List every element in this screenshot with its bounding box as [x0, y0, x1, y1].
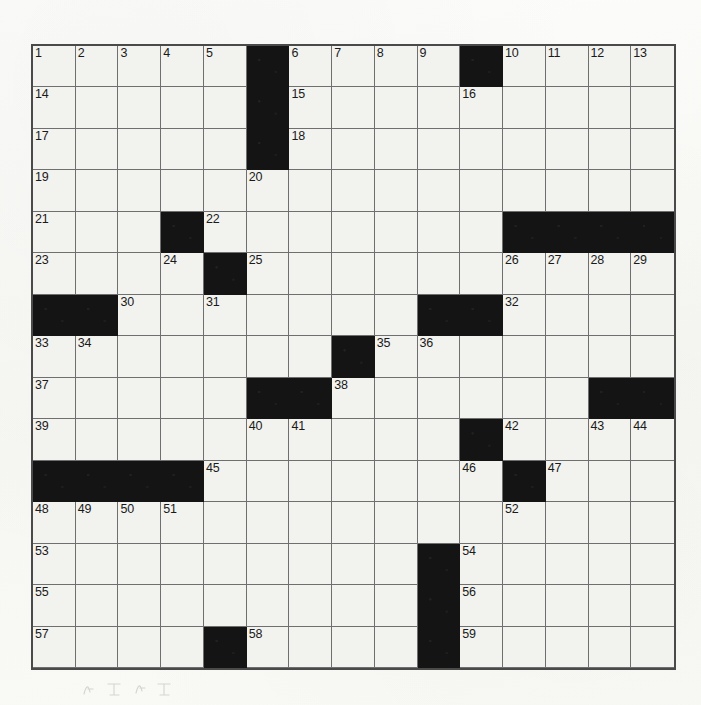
crossword-cell[interactable] [631, 336, 674, 377]
crossword-cell[interactable]: 5 [204, 46, 247, 87]
crossword-cell[interactable] [118, 627, 161, 668]
crossword-cell[interactable]: 4 [161, 46, 204, 87]
crossword-cell[interactable] [161, 87, 204, 128]
crossword-cell[interactable] [247, 295, 290, 336]
crossword-cell[interactable] [460, 336, 503, 377]
crossword-cell[interactable] [332, 87, 375, 128]
crossword-cell[interactable]: 7 [332, 46, 375, 87]
crossword-cell[interactable] [503, 378, 546, 419]
crossword-cell[interactable]: 8 [375, 46, 418, 87]
crossword-cell[interactable] [375, 212, 418, 253]
crossword-cell[interactable] [375, 585, 418, 626]
crossword-cell[interactable] [418, 419, 461, 460]
crossword-cell[interactable] [76, 544, 119, 585]
crossword-cell[interactable] [332, 170, 375, 211]
crossword-cell[interactable] [289, 336, 332, 377]
crossword-cell[interactable] [631, 461, 674, 502]
crossword-cell[interactable] [460, 129, 503, 170]
crossword-cell[interactable]: 54 [460, 544, 503, 585]
crossword-cell[interactable] [503, 129, 546, 170]
crossword-cell[interactable] [631, 129, 674, 170]
crossword-cell[interactable] [289, 585, 332, 626]
crossword-cell[interactable] [118, 170, 161, 211]
crossword-cell[interactable] [289, 461, 332, 502]
crossword-cell[interactable] [161, 585, 204, 626]
crossword-cell[interactable] [631, 170, 674, 211]
crossword-cell[interactable] [332, 585, 375, 626]
crossword-cell[interactable] [418, 129, 461, 170]
crossword-cell[interactable] [332, 295, 375, 336]
crossword-cell[interactable] [503, 627, 546, 668]
crossword-cell[interactable] [589, 336, 632, 377]
crossword-cell[interactable]: 17 [33, 129, 76, 170]
crossword-cell[interactable] [332, 502, 375, 543]
crossword-cell[interactable] [589, 461, 632, 502]
crossword-cell[interactable] [418, 170, 461, 211]
crossword-cell[interactable]: 26 [503, 253, 546, 294]
crossword-cell[interactable]: 21 [33, 212, 76, 253]
crossword-cell[interactable]: 37 [33, 378, 76, 419]
crossword-cell[interactable] [546, 627, 589, 668]
crossword-cell[interactable]: 45 [204, 461, 247, 502]
crossword-cell[interactable] [546, 502, 589, 543]
crossword-cell[interactable] [375, 87, 418, 128]
crossword-cell[interactable] [631, 295, 674, 336]
crossword-cell[interactable]: 44 [631, 419, 674, 460]
crossword-cell[interactable] [247, 461, 290, 502]
crossword-cell[interactable] [460, 378, 503, 419]
crossword-cell[interactable] [118, 419, 161, 460]
crossword-cell[interactable] [76, 378, 119, 419]
crossword-cell[interactable] [589, 502, 632, 543]
crossword-cell[interactable] [503, 585, 546, 626]
crossword-cell[interactable]: 18 [289, 129, 332, 170]
crossword-cell[interactable]: 30 [118, 295, 161, 336]
crossword-cell[interactable] [375, 627, 418, 668]
crossword-cell[interactable]: 57 [33, 627, 76, 668]
crossword-cell[interactable] [76, 585, 119, 626]
crossword-cell[interactable]: 20 [247, 170, 290, 211]
crossword-cell[interactable]: 35 [375, 336, 418, 377]
crossword-cell[interactable] [375, 378, 418, 419]
crossword-cell[interactable]: 3 [118, 46, 161, 87]
crossword-cell[interactable]: 10 [503, 46, 546, 87]
crossword-cell[interactable] [76, 87, 119, 128]
crossword-cell[interactable] [204, 87, 247, 128]
crossword-cell[interactable]: 2 [76, 46, 119, 87]
crossword-cell[interactable] [546, 419, 589, 460]
crossword-cell[interactable]: 33 [33, 336, 76, 377]
crossword-cell[interactable] [247, 212, 290, 253]
crossword-cell[interactable] [247, 502, 290, 543]
crossword-cell[interactable] [631, 627, 674, 668]
crossword-cell[interactable] [332, 129, 375, 170]
crossword-cell[interactable] [375, 129, 418, 170]
crossword-cell[interactable] [375, 295, 418, 336]
crossword-cell[interactable] [418, 253, 461, 294]
crossword-cell[interactable] [161, 295, 204, 336]
crossword-cell[interactable] [204, 502, 247, 543]
crossword-cell[interactable]: 52 [503, 502, 546, 543]
crossword-cell[interactable]: 58 [247, 627, 290, 668]
crossword-cell[interactable] [418, 502, 461, 543]
crossword-cell[interactable]: 55 [33, 585, 76, 626]
crossword-cell[interactable] [161, 419, 204, 460]
crossword-cell[interactable]: 38 [332, 378, 375, 419]
crossword-cell[interactable]: 12 [589, 46, 632, 87]
crossword-cell[interactable]: 46 [460, 461, 503, 502]
crossword-cell[interactable] [589, 170, 632, 211]
crossword-cell[interactable] [76, 253, 119, 294]
crossword-cell[interactable] [161, 170, 204, 211]
crossword-cell[interactable] [589, 627, 632, 668]
crossword-cell[interactable] [589, 87, 632, 128]
crossword-cell[interactable] [118, 253, 161, 294]
crossword-cell[interactable] [546, 295, 589, 336]
crossword-cell[interactable]: 16 [460, 87, 503, 128]
crossword-cell[interactable] [247, 585, 290, 626]
crossword-cell[interactable] [289, 295, 332, 336]
crossword-cell[interactable]: 29 [631, 253, 674, 294]
crossword-cell[interactable] [460, 502, 503, 543]
crossword-cell[interactable] [631, 502, 674, 543]
crossword-cell[interactable] [375, 419, 418, 460]
crossword-cell[interactable] [332, 419, 375, 460]
crossword-cell[interactable] [631, 544, 674, 585]
crossword-cell[interactable]: 56 [460, 585, 503, 626]
